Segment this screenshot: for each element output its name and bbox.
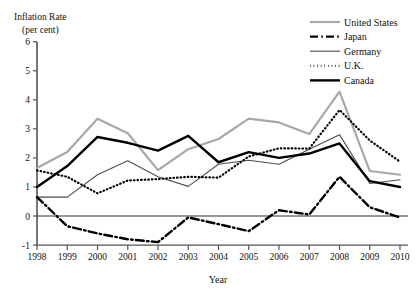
x-tick-label: 2000 [88,252,107,262]
legend-label-canada: Canada [344,75,375,86]
y-tick-group: 6543210-1 [22,37,37,250]
x-tick-label: 2002 [149,252,168,262]
legend-label-japan: Japan [344,31,367,42]
series-group [37,92,400,242]
x-tick-label: 2007 [300,252,319,262]
x-tick-label: 2003 [179,252,198,262]
x-tick-label: 2006 [270,252,289,262]
chart-axes [37,42,408,245]
y-tick-label: 5 [25,66,30,76]
x-tick-label: 1998 [28,252,47,262]
legend-label-germany: Germany [344,46,381,57]
y-tick-label: 6 [25,37,30,47]
y-tick-label: 3 [25,124,30,134]
x-tick-label: 2001 [118,252,137,262]
x-tick-label: 2004 [209,252,228,262]
legend-label-u-k: U.K. [344,60,363,71]
y-tick-label: 1 [25,182,30,192]
y-tick-label: 0 [25,212,30,222]
x-tick-label: 2005 [239,252,258,262]
x-axis-title: Year [209,274,228,285]
x-tick-label: 1999 [58,252,77,262]
y-tick-label: 4 [25,95,30,105]
chart-legend: United StatesJapanGermanyU.K.Canada [310,17,398,86]
x-tick-label: 2008 [330,252,349,262]
inflation-rate-chart: Inflation Rate (per cent) 6543210-1 1998… [0,0,416,290]
legend-label-united-states: United States [344,17,398,28]
y-tick-label: 2 [25,153,30,163]
series-line-japan [37,177,400,242]
y-axis-title-line2: (per cent) [22,25,59,36]
y-tick-label: -1 [22,241,30,251]
x-tick-label: 2010 [391,252,410,262]
chart-svg: Inflation Rate (per cent) 6543210-1 1998… [0,0,416,290]
x-tick-label: 2009 [360,252,379,262]
y-axis-title-line1: Inflation Rate [14,12,67,22]
x-tick-group: 1998199920002001200220032004200520062007… [28,245,410,262]
